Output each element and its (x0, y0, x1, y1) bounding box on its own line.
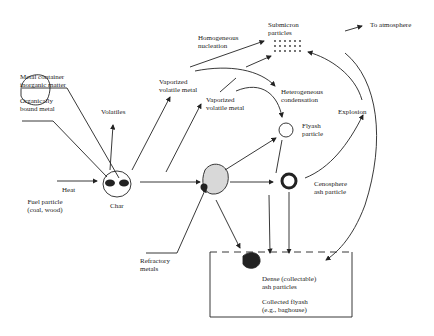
label-refractory: Refractorymetals (140, 257, 170, 273)
label-fuel-particle: Fuel particle(coal, wood) (15, 198, 75, 214)
label-collected: Collected flyash(e.g., baghouse) (262, 298, 308, 314)
label-flyash-particle: Flyashparticle (302, 122, 323, 138)
label-dense: Dense (collectable)ash particles (262, 275, 316, 291)
label-heterogeneous: Heterogeneouscondensation (281, 88, 323, 104)
label-heat: Heat (62, 186, 75, 194)
submicron-dots (274, 40, 301, 52)
label-organic-metal: Organicallybound metal (20, 97, 55, 113)
label-char: Char (110, 202, 124, 210)
label-homogeneous: Homogeneousnucleation (198, 34, 238, 50)
label-metal-container: Metal containerinorganic matter (20, 73, 66, 89)
flyash-particle-shape (279, 123, 293, 137)
label-explosion: Explosion (338, 108, 366, 116)
label-submicron: Submicronparticles (268, 21, 299, 37)
refractory-particle-shape (203, 164, 229, 194)
label-volatiles: Volatiles (101, 108, 125, 116)
label-vaporized-1: Vaporizedvolatile metal (159, 78, 197, 94)
label-vaporized-2: Vaporizedvolatile metal (206, 96, 244, 112)
label-to-atmosphere: To atmosphere (370, 21, 411, 29)
dense-particle-shape (243, 253, 260, 269)
flow-diagram (0, 0, 434, 336)
label-cenosphere: Cenosphereash particle (314, 180, 347, 196)
cenosphere-shape (282, 174, 296, 188)
